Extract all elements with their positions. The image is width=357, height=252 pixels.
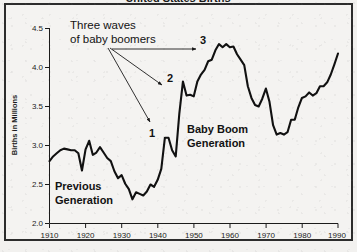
x-tick-label: 1950 — [185, 231, 203, 240]
y-tick-label: 4.0 — [32, 63, 44, 72]
previous-generation-line2: Generation — [55, 194, 113, 206]
chart-figure: United States Births 2.0 2.5 3.0 3.5 4.0… — [0, 0, 357, 252]
births-series-line — [50, 44, 339, 199]
x-tick-label: 1910 — [41, 231, 59, 240]
baby-boom-generation-line1: Baby Boom — [187, 123, 248, 135]
three-waves-note-line1: Three waves — [70, 19, 136, 31]
three-waves-note-line2: of baby boomers — [70, 33, 156, 45]
y-tick-label: 2.5 — [32, 180, 44, 189]
previous-generation-line1: Previous — [55, 180, 101, 192]
wave-marker-2: 2 — [167, 72, 173, 84]
y-tick-label: 3.0 — [32, 141, 44, 150]
x-tick-label: 1970 — [257, 231, 275, 240]
x-tick-label: 1990 — [328, 231, 346, 240]
y-tick-label: 2.0 — [32, 219, 44, 228]
x-tick-label: 1920 — [77, 231, 95, 240]
x-tick-label: 1960 — [221, 231, 239, 240]
y-tick-label: 4.5 — [32, 24, 44, 33]
x-tick-label: 1980 — [293, 231, 311, 240]
births-line-chart: United States Births 2.0 2.5 3.0 3.5 4.0… — [0, 0, 357, 252]
y-axis-ticks: 2.0 2.5 3.0 3.5 4.0 4.5 — [32, 24, 50, 228]
x-tick-label: 1930 — [113, 231, 131, 240]
wave-marker-1: 1 — [149, 127, 155, 139]
arrow-to-wave-2 — [110, 48, 162, 85]
y-axis-title: Births in Millions — [10, 95, 19, 155]
wave-marker-3: 3 — [200, 34, 206, 46]
chart-title-clipped: United States Births — [125, 0, 230, 4]
y-tick-label: 3.5 — [32, 102, 44, 111]
baby-boom-generation-line2: Generation — [187, 137, 245, 149]
x-axis-ticks: 1910 1920 1930 1940 1950 1960 1970 1980 … — [41, 224, 347, 241]
x-tick-label: 1940 — [149, 231, 167, 240]
arrow-to-wave-1 — [108, 48, 150, 122]
